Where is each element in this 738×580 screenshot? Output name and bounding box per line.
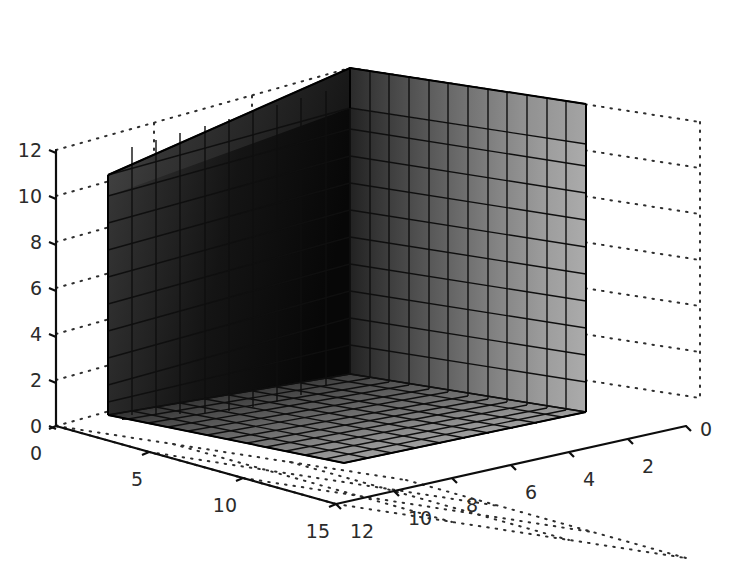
y-tick-label: 8: [466, 494, 478, 516]
z-tick-label: 6: [30, 277, 42, 299]
x-tick-label: 15: [306, 520, 330, 542]
x-tick-label: 10: [213, 494, 237, 516]
z-axis-tick-labels: 12 10 8 6 4 2 0: [18, 139, 42, 437]
z-tick-label: 8: [30, 231, 42, 253]
y-tick-label: 6: [525, 481, 537, 503]
z-tick-label: 4: [30, 323, 42, 345]
x-axis-tick-labels: 0 5 10 15: [30, 442, 330, 542]
y-tick-label: 0: [700, 418, 712, 440]
z-tick-label: 2: [30, 369, 42, 391]
y-tick-label: 12: [350, 520, 374, 542]
figure-canvas: 12 10 8 6 4 2 0 0 5 10 15 12 10 8 6 4 2 …: [0, 0, 738, 580]
y-tick-label: 4: [583, 468, 595, 490]
y-tick-label: 2: [642, 455, 654, 477]
z-tick-label: 10: [18, 185, 42, 207]
x-tick-label: 0: [30, 442, 42, 464]
z-tick-label: 12: [18, 139, 42, 161]
x-tick-label: 5: [131, 468, 143, 490]
surface-mesh: [108, 68, 586, 463]
z-tick-label: 0: [30, 415, 42, 437]
y-tick-label: 10: [408, 507, 432, 529]
surface-plot-3d: 12 10 8 6 4 2 0 0 5 10 15 12 10 8 6 4 2 …: [0, 0, 738, 580]
